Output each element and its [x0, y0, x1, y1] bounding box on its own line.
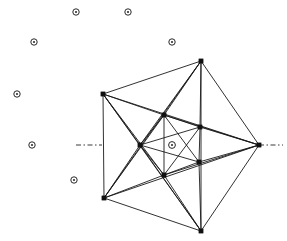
edge-BL-iB	[104, 175, 164, 198]
vertices-group	[101, 59, 261, 233]
edge-R-iB	[164, 145, 259, 175]
vertex-inner-right-upper	[198, 125, 202, 129]
marker-6-center-dot	[31, 144, 33, 146]
vertex-outer-left-upper	[101, 92, 105, 96]
edges-group	[103, 61, 259, 231]
edge-T-iL	[140, 61, 201, 145]
marker-2-center-dot	[127, 11, 129, 13]
vertex-inner-right-lower	[197, 160, 201, 164]
vertex-outer-bottom	[199, 229, 203, 233]
edge-L-T	[103, 61, 201, 94]
vertex-inner-left	[138, 143, 142, 147]
edge-iT-iRL	[164, 115, 199, 162]
vertex-inner-bottom	[162, 173, 166, 177]
marker-4-center-dot	[171, 41, 173, 43]
edge-B-BL	[104, 198, 201, 231]
vertex-outer-top	[199, 59, 203, 63]
marker-1-center-dot	[75, 11, 77, 13]
edge-iT-iRU	[164, 115, 200, 127]
edge-BL-iT	[104, 115, 164, 198]
figure-root	[0, 0, 287, 241]
markers-group	[14, 9, 176, 183]
edge-iL-iT	[140, 115, 164, 145]
edge-iRU-iRL	[199, 127, 200, 162]
marker-7-center-dot	[73, 179, 75, 181]
marker-center-center-dot	[171, 144, 173, 146]
marker-5-center-dot	[16, 93, 18, 95]
edge-B-iL	[140, 145, 201, 231]
edge-iRU-iB	[164, 127, 200, 175]
edge-BL-R	[104, 145, 259, 198]
marker-3-center-dot	[33, 41, 35, 43]
edge-T-R	[201, 61, 259, 145]
vertex-inner-top	[162, 113, 166, 117]
edge-R-B	[201, 145, 259, 231]
edge-BL-L	[103, 94, 104, 198]
edge-iB-iL	[140, 145, 164, 175]
vertex-outer-right	[257, 143, 261, 147]
vertex-outer-bottom-left	[102, 196, 106, 200]
polyhedron-diagram	[0, 0, 287, 241]
edge-L-iT	[103, 94, 164, 115]
